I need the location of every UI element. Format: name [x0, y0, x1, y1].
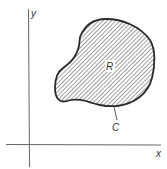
curve-label: C — [112, 122, 120, 133]
region-r — [55, 19, 154, 106]
curve-c-leader — [114, 107, 117, 120]
region-diagram: y x R C — [0, 0, 167, 169]
y-axis — [29, 9, 30, 167]
x-axis-label: x — [155, 148, 162, 159]
region-label: R — [106, 61, 113, 72]
y-axis-label: y — [30, 8, 37, 19]
x-axis — [6, 145, 161, 146]
